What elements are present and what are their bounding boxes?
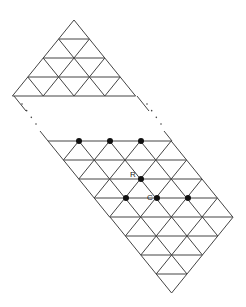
point-c <box>154 195 160 201</box>
ellipsis-left <box>21 103 23 105</box>
diagonal-edge <box>141 217 187 274</box>
ellipsis-left <box>35 123 37 125</box>
label-r: R <box>130 170 136 179</box>
diagonal-edge <box>140 160 186 217</box>
marked-point <box>107 138 113 144</box>
marked-point <box>123 195 129 201</box>
boundary-edge <box>40 131 48 141</box>
diagonal-edge <box>156 217 202 274</box>
diagonal-edge <box>43 39 89 96</box>
diagonal-edge <box>125 217 140 236</box>
boundary-edge <box>14 96 26 111</box>
point-r <box>138 176 144 182</box>
diagonal-edge <box>202 217 217 236</box>
ellipsis-right <box>146 103 148 105</box>
diagonal-edge <box>202 198 217 217</box>
triangular-lattice-diagram: RC <box>0 0 246 307</box>
ellipsis-right <box>151 110 153 112</box>
ellipsis-right <box>156 117 158 119</box>
lattice-lines <box>12 20 233 293</box>
diagonal-edge <box>59 39 105 96</box>
marked-point <box>76 138 82 144</box>
label-c: C <box>147 193 153 202</box>
point-labels: RC <box>130 170 153 202</box>
ellipsis-dots <box>21 103 162 125</box>
diagonal-edge <box>63 141 78 160</box>
marked-point <box>185 195 191 201</box>
diagonal-edge <box>105 77 120 96</box>
ellipsis-right <box>160 123 162 125</box>
marked-point <box>138 138 144 144</box>
ellipsis-left <box>31 117 33 119</box>
boundary-edge <box>164 131 172 141</box>
diagonal-edge <box>28 77 43 96</box>
ellipsis-left <box>26 110 28 112</box>
